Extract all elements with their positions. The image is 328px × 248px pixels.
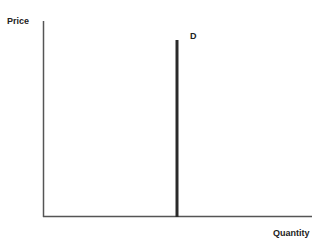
y-axis-label: Price — [7, 16, 29, 26]
demand-label: D — [190, 31, 197, 41]
chart-canvas — [0, 0, 328, 248]
x-axis-label: Quantity — [273, 228, 310, 238]
